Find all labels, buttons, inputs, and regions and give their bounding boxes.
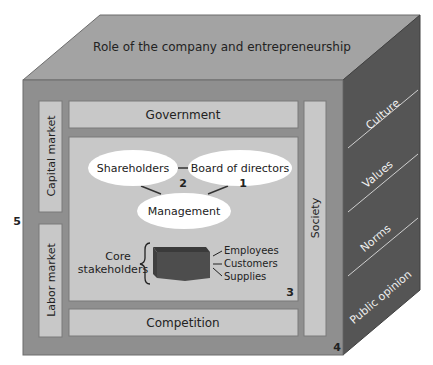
core-box-front <box>157 252 210 281</box>
stakeholder-customers: Customers <box>224 258 278 269</box>
marker-5: 5 <box>13 215 21 228</box>
labor-market-label: Labor market <box>45 242 58 316</box>
board-of-directors-label: Board of directors <box>191 162 290 175</box>
stakeholder-cube-diagram: Role of the company and entrepreneurship… <box>0 0 433 365</box>
core-box-side <box>153 247 157 278</box>
management-label: Management <box>148 205 221 218</box>
capital-market-label: Capital market <box>45 115 58 197</box>
top-face-label: Role of the company and entrepreneurship <box>93 40 351 54</box>
stakeholder-supplies: Supplies <box>224 271 266 282</box>
competition-label: Competition <box>146 316 219 330</box>
government-label: Government <box>146 108 221 122</box>
shareholders-label: Shareholders <box>97 162 170 175</box>
core-box-top <box>153 247 210 252</box>
marker-3: 3 <box>286 286 294 299</box>
society-label: Society <box>309 197 322 238</box>
marker-2: 2 <box>179 177 187 190</box>
core-stakeholders-label-line1: Core <box>105 250 131 263</box>
core-stakeholders-label-line2: stakeholders <box>78 263 149 276</box>
stakeholder-employees: Employees <box>224 245 279 256</box>
marker-4: 4 <box>333 341 341 354</box>
marker-1: 1 <box>239 177 247 190</box>
